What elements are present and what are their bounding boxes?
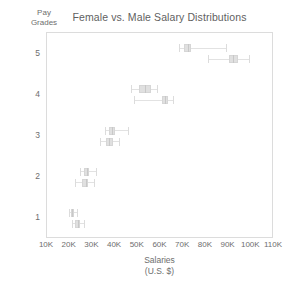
boxplot-cap-low — [208, 55, 209, 63]
x-axis-title: Salaries (U.S. $) — [46, 255, 273, 276]
boxplot-median-line — [112, 127, 113, 135]
boxplot-median-line — [87, 168, 88, 176]
boxplot-cap-high — [128, 127, 129, 135]
boxplot-whisker-low — [75, 182, 82, 183]
boxplot-median-line — [72, 209, 73, 217]
boxplot-whisker-high — [115, 130, 127, 131]
boxplot-cap-high — [84, 220, 85, 228]
boxplot-cap-low — [75, 179, 76, 187]
boxplot-median-line — [233, 55, 234, 63]
boxplot-median-line — [78, 220, 79, 228]
boxplot-whisker-low — [208, 59, 228, 60]
boxplot-cap-low — [69, 209, 70, 217]
y-axis-tick-label: 2 — [16, 171, 40, 181]
boxplot-cap-low — [105, 127, 106, 135]
boxplot-cap-low — [100, 138, 101, 146]
y-axis-tick-label: 1 — [16, 212, 40, 222]
boxplot-cap-low — [131, 85, 132, 93]
y-axis-tick-label: 4 — [16, 89, 40, 99]
boxplot-whisker-high — [89, 171, 96, 172]
boxplot-cap-high — [173, 96, 174, 104]
boxplot-whisker-high — [191, 48, 226, 49]
boxplot-median-line — [86, 179, 87, 187]
boxplot-cap-high — [226, 44, 227, 52]
boxplot-median-line — [165, 96, 166, 104]
boxplot-cap-high — [119, 138, 120, 146]
boxplot-chart: Pay Grades Female vs. Male Salary Distri… — [0, 0, 297, 290]
boxplot-whisker-low — [134, 100, 161, 101]
boxplot-cap-low — [72, 220, 73, 228]
boxplot-median-line — [109, 138, 110, 146]
boxplot-cap-high — [249, 55, 250, 63]
boxplot-whisker-high — [238, 59, 249, 60]
chart-title: Female vs. Male Salary Distributions — [46, 11, 273, 23]
boxplot-cap-high — [94, 179, 95, 187]
boxplot-cap-high — [96, 168, 97, 176]
boxplot-cap-high — [157, 85, 158, 93]
boxplot-cap-low — [179, 44, 180, 52]
plot-area — [46, 32, 273, 238]
boxplot-median-line — [188, 44, 189, 52]
y-axis-tick-label: 3 — [16, 130, 40, 140]
boxplot-cap-low — [134, 96, 135, 104]
x-axis-tick-label: 110K — [256, 240, 290, 249]
boxplot-whisker-low — [131, 89, 139, 90]
y-axis-tick-label: 5 — [16, 48, 40, 58]
boxplot-median-line — [145, 85, 146, 93]
boxplot-cap-low — [80, 168, 81, 176]
boxplot-cap-high — [77, 209, 78, 217]
